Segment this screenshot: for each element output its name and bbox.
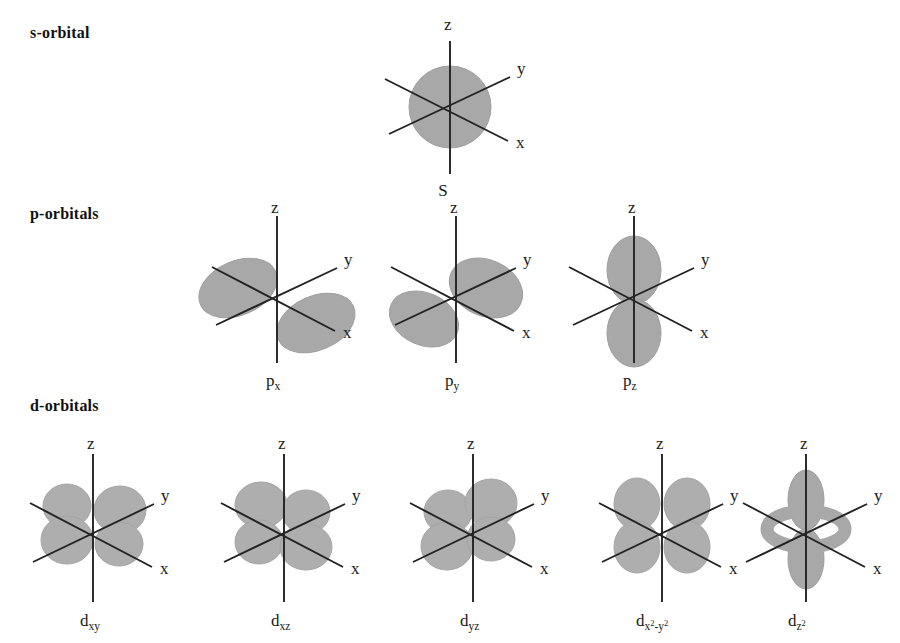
- y-axis-label: y: [344, 250, 353, 269]
- orbital-label-s: S: [438, 181, 447, 200]
- orbital-s: z y x S: [358, 8, 548, 198]
- dyz-orbital-lobes: [421, 479, 517, 570]
- orbital-label-dyz: dyz: [460, 611, 479, 633]
- row-label-d-orbitals: d-orbitals: [30, 397, 99, 415]
- orbital-label-px: px: [266, 371, 281, 392]
- z-axis-label: z: [628, 198, 636, 217]
- orbital-label-dz2: dz2: [788, 611, 806, 632]
- orbital-pz: z y x pz: [548, 200, 738, 390]
- orbital-label-dxy: dxy: [80, 611, 100, 633]
- z-axis-label: z: [271, 198, 279, 217]
- x-axis-label: x: [873, 559, 882, 578]
- y-axis-label: y: [541, 486, 550, 505]
- y-axis-label: y: [523, 250, 532, 269]
- z-axis-label: z: [87, 434, 95, 453]
- orbital-dz2: z y x dz2: [730, 432, 900, 632]
- z-axis-label: z: [450, 198, 458, 217]
- x-axis-label: x: [522, 323, 531, 342]
- z-axis-label: z: [656, 434, 664, 453]
- z-axis-label: z: [278, 434, 286, 453]
- orbital-dxz: z y x dxz: [198, 432, 388, 632]
- y-axis-label: y: [874, 486, 883, 505]
- y-axis-label: y: [161, 486, 170, 505]
- row-label-s-orbital: s-orbital: [30, 24, 90, 42]
- orbital-label-dx2-y2: dx2-y2: [636, 611, 668, 633]
- orbital-py: z y x py: [368, 200, 558, 390]
- x-axis-label: x: [540, 559, 549, 578]
- x-axis-label: x: [700, 323, 709, 342]
- row-label-p-orbitals: p-orbitals: [30, 205, 99, 223]
- x-axis-label: x: [351, 559, 360, 578]
- orbital-label-pz: pz: [623, 371, 637, 392]
- orbital-label-py: py: [445, 371, 460, 393]
- y-axis-label: y: [701, 250, 710, 269]
- z-axis-label: z: [467, 434, 475, 453]
- orbital-diagram-figure: s-orbital p-orbitals d-orbitals z y x S: [0, 0, 900, 643]
- y-axis-label: y: [352, 486, 361, 505]
- y-axis-label: y: [517, 59, 526, 78]
- orbital-label-dxz: dxz: [271, 611, 290, 632]
- orbital-dyz: z y x dyz: [388, 432, 578, 632]
- x-axis-label: x: [343, 323, 352, 342]
- z-axis-label: z: [444, 15, 452, 34]
- x-axis-label: x: [516, 133, 525, 152]
- orbital-px: z y x px: [188, 200, 378, 390]
- orbital-dxy: z y x dxy: [8, 432, 198, 632]
- x-axis-label: x: [160, 559, 169, 578]
- z-axis-label: z: [800, 434, 808, 453]
